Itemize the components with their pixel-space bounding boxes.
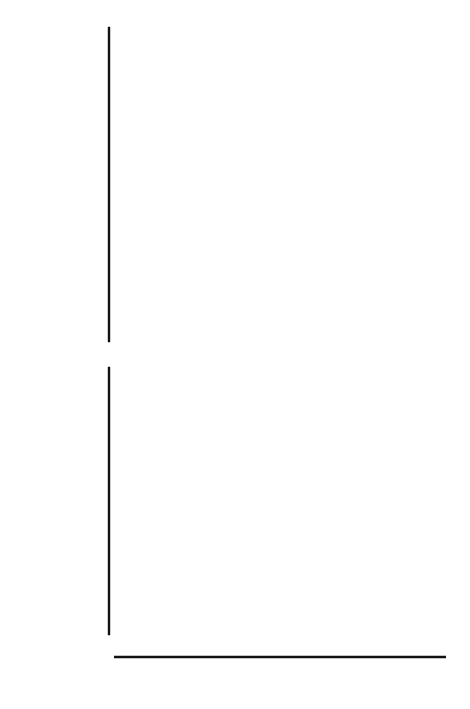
bottom-panel [109,368,446,657]
two-panel-line-chart [0,0,470,709]
figure-root [0,0,470,709]
